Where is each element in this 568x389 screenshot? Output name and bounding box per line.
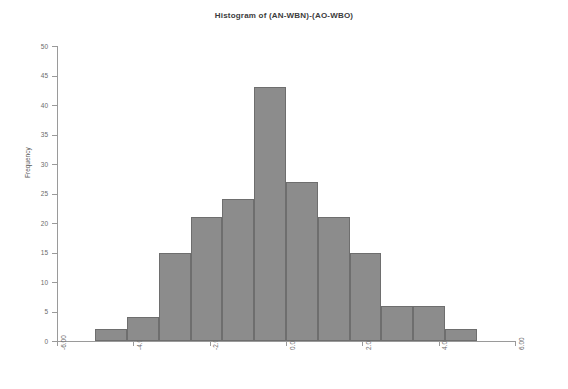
histogram-bar — [191, 217, 223, 341]
y-tick-label: 40 — [8, 102, 48, 109]
y-tick-label: 10 — [8, 279, 48, 286]
histogram-bar — [127, 317, 159, 341]
y-tick-label: 15 — [8, 249, 48, 256]
y-tick-label: 50 — [8, 43, 48, 50]
x-tick-mark — [362, 341, 363, 346]
histogram-bar — [222, 199, 254, 341]
y-tick-label: 30 — [8, 161, 48, 168]
y-tick-label: 25 — [8, 190, 48, 197]
histogram-chart: Histogram of (AN-WBN)-(AO-WBO) Frequency… — [0, 0, 568, 389]
chart-title: Histogram of (AN-WBN)-(AO-WBO) — [0, 11, 568, 20]
histogram-bar — [254, 87, 286, 341]
x-tick-mark — [133, 341, 134, 346]
histogram-bar — [350, 253, 382, 342]
histogram-bar — [445, 329, 477, 341]
x-tick-mark — [439, 341, 440, 346]
x-tick-mark — [286, 341, 287, 346]
y-tick-label: 35 — [8, 131, 48, 138]
histogram-bar — [286, 182, 318, 341]
y-tick-label: 45 — [8, 72, 48, 79]
x-tick-mark — [515, 341, 516, 346]
histogram-bar — [381, 306, 413, 341]
x-tick-mark — [210, 341, 211, 346]
histogram-bar — [413, 306, 445, 341]
y-tick-label: 5 — [8, 308, 48, 315]
plot-area — [57, 46, 515, 341]
y-tick-label: 0 — [8, 338, 48, 345]
histogram-bar — [159, 253, 191, 342]
histogram-bar — [95, 329, 127, 341]
x-tick-label: 6.00 — [518, 337, 525, 350]
histogram-bar — [318, 217, 350, 341]
y-tick-label: 20 — [8, 220, 48, 227]
x-tick-mark — [57, 341, 58, 346]
